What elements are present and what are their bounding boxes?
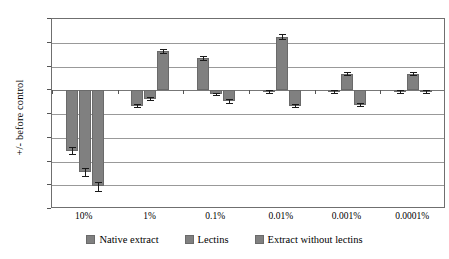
legend-swatch-extract-without-lectins (255, 235, 264, 244)
error-cap-10%-1-lower (82, 176, 89, 177)
bar-chart: +/- before control 6040200-20-40-60-80-1… (0, 0, 449, 259)
error-cap-10%-2-upper (95, 182, 102, 183)
y-tick-mark-0 (47, 89, 51, 90)
bar-group-1% (118, 19, 184, 207)
error-cap-0.0001%-0-upper (397, 90, 404, 91)
error-cap-1%-1-upper (147, 97, 154, 98)
error-cap-1%-0-upper (134, 104, 141, 105)
y-tick-mark--20 (47, 113, 51, 114)
y-tick-mark-40 (47, 42, 51, 43)
x-tick-label-0.001%: 0.001% (314, 211, 380, 221)
error-cap-1%-2-upper (160, 49, 167, 50)
error-cap-0.0001%-1-upper (410, 72, 417, 73)
x-tick-label-0.0001%: 0.0001% (379, 211, 445, 221)
plot-area (51, 18, 445, 208)
error-cap-0.1%-0-upper (200, 56, 207, 57)
legend-label-extract-without-lectins: Extract without lectins (268, 234, 363, 245)
error-bar-10%-1 (85, 168, 86, 176)
x-tick-label-10%: 10% (51, 211, 117, 221)
legend-label-native-extract: Native extract (99, 234, 158, 245)
error-cap-0.1%-2-lower (226, 103, 233, 104)
error-cap-0.001%-1-upper (344, 72, 351, 73)
bar-groups (52, 19, 444, 207)
y-tick-mark--60 (47, 161, 51, 162)
error-cap-10%-2-lower (95, 191, 102, 192)
x-tick-mark-0.01% (249, 90, 250, 94)
error-cap-1%-1-lower (147, 100, 154, 101)
bar-0.01%-lectins (276, 37, 288, 90)
error-cap-0.0001%-0-lower (397, 93, 404, 94)
x-tick-label-0.1%: 0.1% (182, 211, 248, 221)
bar-0.1%-native-extract (197, 58, 209, 90)
error-bar-10%-0 (72, 147, 73, 154)
y-tick-mark--40 (47, 137, 51, 138)
bar-group-0.001% (315, 19, 381, 207)
x-tick-mark-10% (52, 90, 53, 94)
x-tick-mark-0.0001% (380, 90, 381, 94)
legend-item-extract-without-lectins: Extract without lectins (255, 234, 363, 245)
x-tick-label-0.01%: 0.01% (248, 211, 314, 221)
y-axis-title: +/- before control (14, 43, 25, 193)
y-tick-mark--80 (47, 184, 51, 185)
x-tick-mark-0.001% (315, 90, 316, 94)
bar-10%-lectins (79, 90, 91, 172)
bar-10%-extract-without-lectins (92, 90, 104, 186)
bar-group-0.0001% (380, 19, 446, 207)
error-cap-0.0001%-1-lower (410, 75, 417, 76)
error-cap-0.01%-1-upper (279, 34, 286, 35)
legend-item-native-extract: Native extract (86, 234, 158, 245)
error-cap-0.01%-0-upper (266, 90, 273, 91)
legend-item-lectins: Lectins (185, 234, 229, 245)
error-cap-10%-0-upper (69, 147, 76, 148)
legend-swatch-native-extract (86, 235, 95, 244)
y-tick-mark-60 (47, 18, 51, 19)
legend-swatch-lectins (185, 235, 194, 244)
y-tick-mark--100 (47, 208, 51, 209)
error-cap-0.001%-0-upper (331, 90, 338, 91)
error-cap-0.01%-2-lower (292, 107, 299, 108)
error-cap-0.0001%-2-upper (423, 90, 430, 91)
x-tick-label-1%: 1% (117, 211, 183, 221)
bar-10%-native-extract (66, 90, 78, 151)
x-tick-mark-1% (118, 90, 119, 94)
error-cap-0.001%-2-lower (357, 106, 364, 107)
error-cap-10%-0-lower (69, 154, 76, 155)
bar-group-0.1% (183, 19, 249, 207)
y-tick-mark-20 (47, 66, 51, 67)
error-cap-10%-1-upper (82, 168, 89, 169)
error-cap-1%-0-lower (134, 107, 141, 108)
legend-label-lectins: Lectins (198, 234, 229, 245)
error-cap-0.01%-0-lower (266, 93, 273, 94)
error-cap-0.001%-0-lower (331, 93, 338, 94)
bar-1%-extract-without-lectins (157, 51, 169, 90)
error-cap-0.01%-2-upper (292, 104, 299, 105)
error-cap-0.01%-1-lower (279, 39, 286, 40)
bar-group-0.01% (249, 19, 315, 207)
error-cap-0.1%-0-lower (200, 60, 207, 61)
error-cap-0.1%-2-upper (226, 99, 233, 100)
error-cap-0.1%-1-lower (213, 95, 220, 96)
x-tick-mark-0.1% (183, 90, 184, 94)
error-cap-1%-2-lower (160, 53, 167, 54)
bar-group-10% (52, 19, 118, 207)
error-bar-10%-2 (98, 182, 99, 192)
chart-legend: Native extract Lectins Extract without l… (0, 234, 449, 245)
error-cap-0.001%-1-lower (344, 75, 351, 76)
error-cap-0.0001%-2-lower (423, 93, 430, 94)
error-cap-0.1%-1-upper (213, 93, 220, 94)
error-cap-0.001%-2-upper (357, 103, 364, 104)
